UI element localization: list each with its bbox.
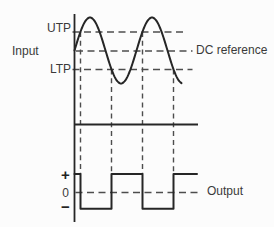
- plus-level-label: +: [61, 166, 70, 183]
- waveform-canvas: Input UTP LTP DC reference Output + 0 −: [0, 0, 274, 227]
- minus-level-label: −: [61, 198, 70, 215]
- utp-threshold-label: UTP: [47, 21, 71, 35]
- lines-layer: [73, 14, 201, 222]
- output-square-wave: [75, 174, 198, 209]
- input-axis-label: Input: [12, 44, 39, 58]
- dc-reference-label: DC reference: [196, 43, 268, 57]
- output-axis-label: Output: [207, 184, 244, 198]
- waveform-figure: Input UTP LTP DC reference Output + 0 −: [0, 0, 274, 227]
- ltp-threshold-label: LTP: [50, 62, 71, 76]
